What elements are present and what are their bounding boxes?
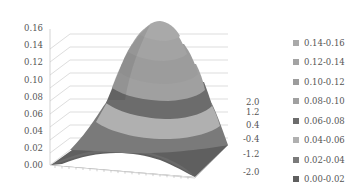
y-tick: 0.14 [13,40,43,50]
legend-item: 0.12-0.14 [293,53,345,73]
depth-tick: -2.0 [243,167,259,177]
legend-label: 0.08-0.10 [304,96,345,106]
legend-item: 0.14-0.16 [293,33,345,53]
legend-item: 0.06-0.08 [293,111,345,131]
legend-swatch-icon [293,59,299,65]
legend-item: 0.08-0.10 [293,92,345,112]
legend-item: 0.00-0.02 [293,170,345,187]
chart-legend: 0.14-0.16 0.12-0.14 0.10-0.12 0.08-0.10 … [293,33,345,186]
legend-label: 0.12-0.14 [304,57,345,67]
legend-label: 0.10-0.12 [304,77,345,87]
legend-swatch-icon [293,176,299,182]
y-tick: 0.10 [13,75,43,85]
legend-label: 0.00-0.02 [304,174,345,184]
legend-item: 0.10-0.12 [293,72,345,92]
legend-swatch-icon [293,79,299,85]
depth-tick: 1.2 [246,107,260,117]
legend-label: 0.04-0.06 [304,135,345,145]
y-tick: 0.16 [13,23,43,33]
y-tick: 0.12 [13,57,43,67]
depth-tick: -0.4 [243,134,259,144]
legend-item: 0.04-0.06 [293,131,345,151]
legend-label: 0.06-0.08 [304,116,345,126]
y-tick: 0.08 [13,92,43,102]
legend-swatch-icon [293,137,299,143]
depth-tick: 2.0 [246,97,260,107]
y-tick: 0.04 [13,126,43,136]
legend-swatch-icon [293,118,299,124]
legend-label: 0.14-0.16 [304,38,345,48]
depth-tick: 0.4 [246,120,260,130]
legend-swatch-icon [293,40,299,46]
y-tick: 0.00 [13,160,43,170]
depth-tick: -1.2 [243,149,259,159]
legend-label: 0.02-0.04 [304,155,345,165]
legend-item: 0.02-0.04 [293,150,345,170]
y-tick: 0.02 [13,143,43,153]
legend-swatch-icon [293,157,299,163]
legend-swatch-icon [293,98,299,104]
y-tick: 0.06 [13,109,43,119]
